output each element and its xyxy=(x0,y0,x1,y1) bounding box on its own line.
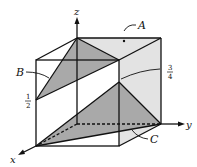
diagram-canvas: z y x A B C 1 2 3 4 xyxy=(0,0,197,167)
z-axis-label: z xyxy=(73,6,80,17)
y-arrow-icon xyxy=(178,122,185,127)
three-quarter-numerator: 3 xyxy=(168,64,172,72)
y-axis-label: y xyxy=(185,119,192,130)
half-denominator: 2 xyxy=(26,102,30,110)
cube-diagram: z y x A B C 1 2 3 4 xyxy=(0,0,197,167)
plane-b-label: B xyxy=(15,66,24,79)
x-arrow-icon xyxy=(18,150,25,156)
plane-a-label: A xyxy=(137,19,146,32)
half-numerator: 1 xyxy=(26,93,30,101)
three-quarter-denominator: 4 xyxy=(168,73,173,81)
z-arrow-icon xyxy=(75,17,80,24)
x-axis xyxy=(22,146,36,153)
plane-c-label: C xyxy=(150,133,159,146)
x-axis-label: x xyxy=(10,154,16,165)
